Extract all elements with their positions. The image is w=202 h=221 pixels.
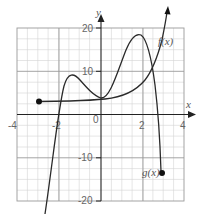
y-axis-label: y [95, 6, 101, 18]
function-graph: y x -4 -2 0 2 4 20 10 -10 -20 g(x) f(x) [0, 0, 202, 221]
y-tick-label: -10 [78, 152, 93, 163]
origin-label: 0 [93, 114, 99, 125]
x-axis-label: x [185, 98, 191, 110]
x-axis-arrow-icon [188, 111, 196, 118]
g-end-dot [159, 170, 165, 176]
y-tick-label: 20 [82, 23, 94, 34]
f-arrow-icon [165, 6, 171, 15]
g-label: g(x) [142, 166, 160, 179]
f-label: f(x) [158, 35, 174, 48]
f-start-dot [36, 99, 42, 105]
axes [17, 20, 192, 201]
x-tick-label: -4 [8, 120, 17, 131]
y-tick-label: 10 [82, 66, 94, 77]
x-tick-label: 4 [180, 120, 186, 131]
y-tick-label: -20 [78, 195, 93, 206]
x-tick-label: 2 [139, 120, 145, 131]
